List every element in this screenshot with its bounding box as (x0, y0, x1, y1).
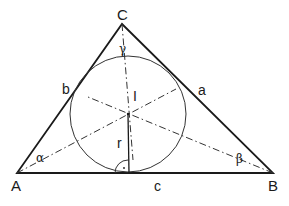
incircle-diagram: C A B b a c I r α β γ (0, 0, 289, 206)
incenter-point (127, 113, 129, 115)
radius-line (128, 114, 129, 173)
angle-label-alpha: α (36, 151, 44, 165)
triangle-abc (17, 24, 273, 173)
angle-label-gamma: γ (119, 42, 126, 56)
incenter-label: I (133, 88, 137, 104)
vertex-label-b: B (268, 177, 278, 194)
vertex-label-c: C (117, 6, 128, 23)
right-angle-dot (123, 167, 125, 169)
radius-label: r (117, 135, 122, 151)
side-label-c: c (154, 178, 161, 194)
angle-label-beta: β (236, 152, 243, 166)
vertex-label-a: A (11, 177, 21, 194)
side-label-b: b (62, 81, 70, 97)
side-label-a: a (198, 82, 206, 98)
bisector-from-b (88, 97, 273, 173)
